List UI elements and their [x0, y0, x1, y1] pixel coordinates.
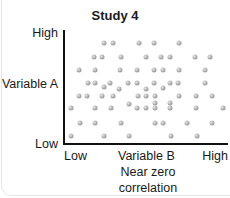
y-axis-line: [63, 30, 65, 145]
data-point: [144, 106, 149, 111]
data-point: [93, 121, 98, 126]
data-point: [208, 55, 213, 60]
x-axis-line: [63, 143, 228, 145]
data-point: [144, 87, 149, 92]
data-point: [136, 94, 141, 99]
chart-title: Study 4: [30, 8, 200, 23]
data-point: [168, 106, 173, 111]
caption-line-1: Near zero: [100, 164, 196, 180]
data-point: [77, 94, 82, 99]
data-point: [195, 134, 200, 139]
data-point: [210, 121, 215, 126]
data-point: [108, 81, 113, 86]
data-point: [93, 68, 98, 73]
data-point: [153, 94, 158, 99]
x-axis-label: Variable B: [118, 149, 175, 163]
data-point: [152, 68, 157, 73]
data-point: [177, 68, 182, 73]
data-point: [111, 94, 116, 99]
data-point: [176, 81, 181, 86]
data-point: [69, 106, 74, 111]
data-point: [194, 94, 199, 99]
data-point: [144, 55, 149, 60]
data-point: [127, 134, 132, 139]
data-point: [185, 121, 190, 126]
data-point: [177, 94, 182, 99]
y-axis-label: Variable A: [2, 77, 58, 91]
data-point: [144, 94, 149, 99]
data-point: [93, 106, 98, 111]
data-point: [153, 121, 158, 126]
data-point: [135, 106, 140, 111]
data-point: [137, 41, 142, 46]
data-point: [161, 121, 166, 126]
data-point: [78, 121, 83, 126]
data-point: [117, 87, 122, 92]
data-point: [152, 41, 157, 46]
data-point: [111, 41, 116, 46]
data-point: [119, 121, 124, 126]
data-point: [152, 81, 157, 86]
data-point: [135, 81, 140, 86]
data-point: [161, 68, 166, 73]
data-point: [193, 55, 198, 60]
data-point: [86, 81, 91, 86]
data-point: [203, 81, 208, 86]
data-point: [109, 106, 114, 111]
data-point: [77, 68, 82, 73]
data-point: [153, 106, 158, 111]
data-point: [69, 134, 74, 139]
data-point: [135, 68, 140, 73]
data-point: [161, 86, 166, 91]
data-point: [168, 55, 173, 60]
data-point: [93, 81, 98, 86]
y-tick-low: Low: [35, 137, 58, 151]
data-point: [203, 68, 208, 73]
data-point: [100, 94, 105, 99]
data-point: [102, 41, 107, 46]
caption-line-2: correlation: [100, 180, 196, 196]
data-point: [92, 55, 97, 60]
data-point: [159, 55, 164, 60]
data-point: [194, 106, 199, 111]
x-tick-low: Low: [64, 149, 87, 163]
data-point: [210, 94, 215, 99]
data-point: [102, 134, 107, 139]
data-point: [118, 68, 123, 73]
data-point: [126, 81, 131, 86]
data-point: [177, 41, 182, 46]
data-point: [85, 94, 90, 99]
data-point: [127, 102, 132, 107]
data-point: [169, 134, 174, 139]
data-point: [119, 55, 124, 60]
data-point: [102, 85, 107, 90]
data-point: [168, 81, 173, 86]
data-point: [100, 55, 105, 60]
chart-caption: Near zero correlation: [100, 164, 196, 196]
y-tick-high: High: [32, 26, 58, 40]
data-point: [221, 106, 226, 111]
x-tick-high: High: [202, 149, 228, 163]
